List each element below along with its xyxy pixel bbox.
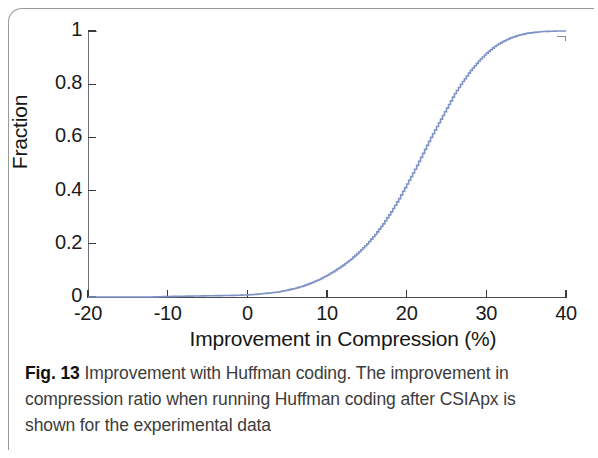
y-tick-label: 0 — [12, 284, 82, 307]
x-axis-title: Improvement in Compression (%) — [0, 327, 598, 351]
x-tick-label: 40 — [531, 302, 598, 325]
x-tick-label: 30 — [451, 302, 521, 325]
cdf-curve — [88, 31, 566, 297]
x-tick-label: -10 — [133, 302, 203, 325]
x-tick-label: 10 — [292, 302, 362, 325]
figure-caption: Fig. 13 Improvement with Huffman coding.… — [25, 360, 570, 438]
figure-caption-label: Fig. 13 — [25, 363, 80, 383]
figure-caption-text: Improvement with Huffman coding. The imp… — [25, 363, 516, 435]
x-tick-label: 0 — [212, 302, 282, 325]
x-tick-label: 20 — [372, 302, 442, 325]
chart-region: -20-10010203040 00.20.40.60.81 Improveme… — [0, 0, 598, 352]
y-axis-title: Fraction — [8, 22, 32, 242]
